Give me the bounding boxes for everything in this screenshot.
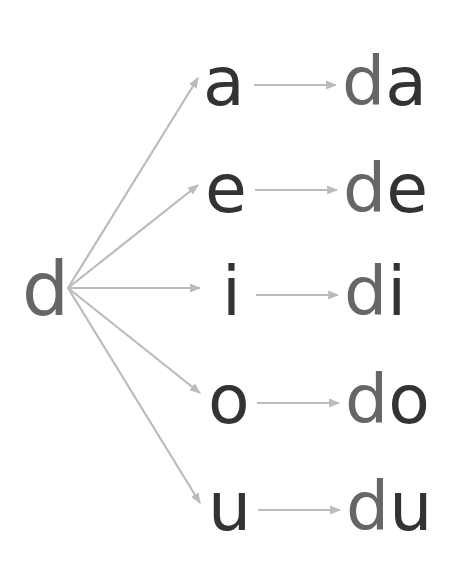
vowel-a: a [203, 42, 245, 121]
result-de-vowel: e [386, 149, 428, 228]
fan-arrows [68, 78, 200, 503]
vowel-column: a e i o u [203, 42, 251, 546]
vowel-e: e [205, 149, 247, 228]
result-arrows [254, 85, 340, 510]
vowel-i: i [222, 252, 241, 331]
result-di: di [344, 252, 406, 331]
result-de: de [343, 149, 428, 228]
vowel-o: o [208, 360, 250, 439]
result-do-vowel: o [388, 360, 430, 439]
result-di-vowel: i [387, 252, 406, 331]
syllable-diagram: d a e i o u da de di do du [0, 0, 456, 561]
result-du-vowel: u [389, 467, 432, 546]
result-da-vowel: a [385, 42, 427, 121]
arrow-d-to-e [68, 185, 198, 288]
result-du: du [346, 467, 432, 546]
result-do: do [345, 360, 430, 439]
source-letter: d [22, 246, 69, 332]
result-di-consonant: d [344, 252, 387, 331]
result-da-consonant: d [342, 42, 385, 121]
result-da: da [342, 42, 427, 121]
result-de-consonant: d [343, 149, 386, 228]
result-column: da de di do du [342, 42, 432, 546]
vowel-u: u [208, 467, 251, 546]
arrow-d-to-o [68, 288, 200, 393]
arrow-d-to-u [68, 288, 200, 503]
result-du-consonant: d [346, 467, 389, 546]
arrow-d-to-a [68, 78, 198, 288]
result-do-consonant: d [345, 360, 388, 439]
